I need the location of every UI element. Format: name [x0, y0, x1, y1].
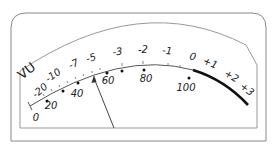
- percent-dot: [77, 82, 80, 85]
- db-label: -1: [162, 45, 173, 57]
- percent-dot: [143, 69, 146, 72]
- needle-arrowhead-icon: [92, 75, 97, 83]
- percent-dot: [121, 70, 124, 73]
- db-label: +3: [238, 80, 256, 98]
- percent-label: 80: [140, 73, 153, 84]
- db-label: -2: [138, 44, 148, 55]
- db-label: +1: [201, 55, 219, 71]
- percent-scale-labels: 020406080100: [33, 73, 196, 123]
- percent-label: 40: [71, 88, 84, 99]
- db-label: -20: [30, 81, 50, 100]
- percent-dot: [188, 77, 191, 80]
- scale-end-tick: [28, 102, 32, 110]
- vu-title: VU: [15, 59, 39, 82]
- percent-label: 60: [102, 75, 115, 86]
- db-label: -5: [84, 51, 97, 65]
- percent-label: 20: [45, 100, 58, 111]
- percent-dot: [62, 90, 65, 93]
- percent-label: 0: [33, 112, 39, 123]
- db-label: 0: [188, 51, 197, 63]
- percent-label: 100: [176, 82, 195, 93]
- db-label: -3: [112, 45, 123, 57]
- db-label: -7: [67, 56, 81, 70]
- db-label: -10: [43, 66, 63, 84]
- db-label: +2: [223, 68, 241, 85]
- vu-meter: -20-10-7-5-3-2-10+1+2+3 020406080100 VU: [0, 0, 278, 148]
